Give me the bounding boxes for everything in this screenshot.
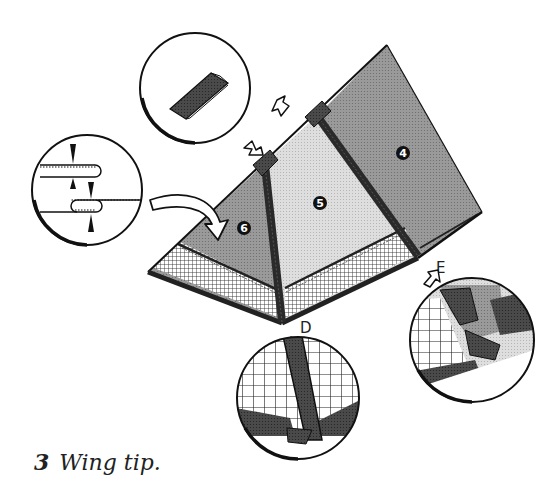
svg-text:6: 6 [240,222,248,235]
figure-title: Wing tip. [59,450,160,475]
panel-5-badge: 5 [313,196,327,210]
arrow-up-right-e-icon [424,270,440,287]
panel-4-badge: 4 [396,146,410,160]
detail-hem-fold [32,135,142,245]
arrow-down-right-icon [272,96,289,116]
wing-tip-diagram: 6 5 4 D E [0,0,556,494]
detail-d [236,336,360,462]
svg-text:4: 4 [399,147,407,160]
panel-6-badge: 6 [237,221,251,235]
figure-number: 3 [34,449,49,475]
detail-spar-cap [140,33,250,143]
figure-caption: 3Wing tip. [34,449,161,475]
point-d-label: D [300,319,312,337]
arrow-down-left-icon [244,141,263,155]
svg-text:5: 5 [316,197,324,210]
detail-e [410,278,534,402]
